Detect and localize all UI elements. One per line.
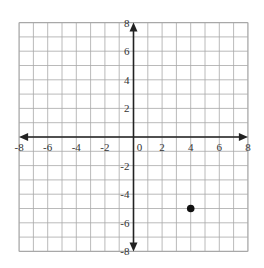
x-axis-left-arrow-icon xyxy=(19,133,28,141)
y-tick-label: 8 xyxy=(124,17,130,29)
data-point xyxy=(187,205,195,213)
x-tick-label: -4 xyxy=(72,141,82,153)
y-tick-label: 4 xyxy=(124,74,130,86)
x-tick-label: 8 xyxy=(245,141,251,153)
x-axis-right-arrow-icon xyxy=(239,133,248,141)
y-axis-down-arrow-icon xyxy=(130,242,138,251)
y-tick-label: -4 xyxy=(120,188,130,200)
x-tick-label: 0 xyxy=(137,141,143,153)
coordinate-plane: -8-6-4-202468 8642-2-4-6-8 xyxy=(0,0,264,268)
y-tick-label: -2 xyxy=(120,160,129,172)
x-tick-label: -8 xyxy=(15,141,25,153)
y-tick-label: 6 xyxy=(124,45,130,57)
x-tick-label: 2 xyxy=(159,141,165,153)
y-tick-label: -8 xyxy=(120,245,130,257)
axes xyxy=(19,23,248,252)
x-tick-label: -6 xyxy=(43,141,53,153)
x-tick-label: 4 xyxy=(188,141,194,153)
x-tick-label: 6 xyxy=(217,141,223,153)
x-tick-label: -2 xyxy=(100,141,109,153)
y-tick-label: 2 xyxy=(124,102,130,114)
y-axis-up-arrow-icon xyxy=(130,23,138,32)
data-points xyxy=(187,205,195,213)
y-tick-label: -6 xyxy=(120,217,130,229)
